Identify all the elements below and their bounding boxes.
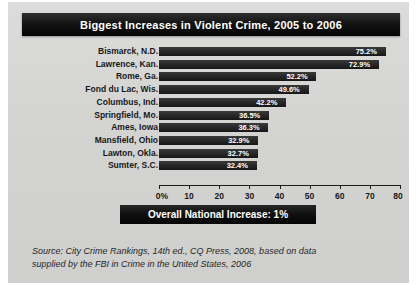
source-title-italic: City Crime Rankings bbox=[66, 246, 148, 256]
value-label: 32.9% bbox=[228, 135, 249, 146]
bar-track: 32.4% bbox=[159, 160, 400, 171]
axis-tick bbox=[189, 185, 190, 189]
bar bbox=[159, 60, 379, 69]
bar-track: 72.9% bbox=[159, 59, 400, 70]
axis-tick-label: 0% bbox=[156, 191, 168, 201]
chart-title-bar: Biggest Increases in Violent Crime, 2005… bbox=[22, 13, 400, 36]
chart-plot-area: Bismarck, N.D. 75.2% Lawrence, Kan. 72.9… bbox=[22, 46, 400, 186]
axis-tick-label: 80 bbox=[393, 191, 402, 201]
source-prefix-2: supplied by the FBI in bbox=[32, 259, 121, 269]
value-label: 36.5% bbox=[239, 110, 260, 121]
bar bbox=[159, 47, 386, 56]
bar-row: Columbus, Ind. 42.2% bbox=[22, 97, 400, 109]
overall-increase-callout: Overall National Increase: 1% bbox=[120, 205, 316, 224]
bar-row: Bismarck, N.D. 75.2% bbox=[22, 46, 400, 58]
category-label: Sumter, S.C. bbox=[26, 160, 158, 171]
source-suffix: , 14th ed., CQ Press, 2008, based on dat… bbox=[148, 246, 317, 256]
source-line-2: supplied by the FBI in Crime in the Unit… bbox=[32, 258, 404, 271]
axis-tick bbox=[370, 185, 371, 189]
bar-track: 36.3% bbox=[159, 122, 400, 133]
overall-increase-text: Overall National Increase: 1% bbox=[148, 209, 288, 220]
bar-row: Sumter, S.C. 32.4% bbox=[22, 160, 400, 172]
bar-row: Lawrence, Kan. 72.9% bbox=[22, 59, 400, 71]
value-label: 52.2% bbox=[286, 71, 307, 82]
category-label: Springfield, Mo. bbox=[26, 110, 158, 121]
axis-tick bbox=[310, 185, 311, 189]
axis-tick-label: 40 bbox=[275, 191, 284, 201]
bar-row: Ames, Iowa 36.3% bbox=[22, 122, 400, 134]
axis-tick-label: 50 bbox=[305, 191, 314, 201]
category-label: Mansfield, Ohio bbox=[26, 135, 158, 146]
bar-row: Fond du Lac, Wis. 49.6% bbox=[22, 84, 400, 96]
bar-track: 49.6% bbox=[159, 84, 400, 95]
axis-tick bbox=[249, 185, 250, 189]
axis-tick bbox=[340, 185, 341, 189]
value-label: 42.2% bbox=[256, 97, 277, 108]
source-line-1: Source: City Crime Rankings, 14th ed., C… bbox=[32, 245, 404, 258]
bar-track: 36.5% bbox=[159, 110, 400, 121]
source-prefix: Source: bbox=[32, 246, 66, 256]
category-label: Rome, Ga. bbox=[26, 71, 158, 82]
axis-tick-label: 70 bbox=[365, 191, 374, 201]
axis-tick-label: 30 bbox=[245, 191, 254, 201]
value-label: 32.4% bbox=[227, 160, 248, 171]
axis-tick bbox=[219, 185, 220, 189]
value-label: 49.6% bbox=[279, 84, 300, 95]
chart-title: Biggest Increases in Violent Crime, 2005… bbox=[80, 19, 342, 31]
category-label: Lawrence, Kan. bbox=[26, 59, 158, 70]
source-note: Source: City Crime Rankings, 14th ed., C… bbox=[32, 245, 404, 271]
axis-tick bbox=[400, 185, 401, 189]
axis-tick bbox=[159, 185, 160, 189]
category-label: Fond du Lac, Wis. bbox=[26, 84, 158, 95]
category-label: Ames, Iowa bbox=[26, 122, 158, 133]
axis-tick-label: 20 bbox=[214, 191, 223, 201]
bar-track: 42.2% bbox=[159, 97, 400, 108]
category-label: Columbus, Ind. bbox=[26, 97, 158, 108]
category-label: Lawton, Okla. bbox=[26, 148, 158, 159]
bar-row: Mansfield, Ohio 32.9% bbox=[22, 135, 400, 147]
bar-row: Rome, Ga. 52.2% bbox=[22, 71, 400, 83]
bar-row: Lawton, Okla. 32.7% bbox=[22, 148, 400, 160]
value-label: 72.9% bbox=[349, 59, 370, 70]
bar-track: 75.2% bbox=[159, 46, 400, 57]
value-label: 32.7% bbox=[228, 148, 249, 159]
bar-track: 52.2% bbox=[159, 71, 400, 82]
value-label: 75.2% bbox=[356, 46, 377, 57]
source-suffix-2: , 2006 bbox=[226, 259, 251, 269]
bar-track: 32.7% bbox=[159, 148, 400, 159]
source-title-italic-2: Crime in the United States bbox=[121, 259, 226, 269]
axis-tick-label: 60 bbox=[335, 191, 344, 201]
category-label: Bismarck, N.D. bbox=[26, 46, 158, 57]
axis-tick-label: 10 bbox=[184, 191, 193, 201]
chart-figure: Biggest Increases in Violent Crime, 2005… bbox=[8, 2, 409, 283]
bar-row: Springfield, Mo. 36.5% bbox=[22, 110, 400, 122]
value-label: 36.3% bbox=[238, 122, 259, 133]
bar-track: 32.9% bbox=[159, 135, 400, 146]
axis-tick bbox=[280, 185, 281, 189]
